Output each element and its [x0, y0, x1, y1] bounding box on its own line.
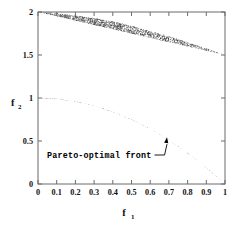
x-tick-label: 0.3 — [89, 188, 99, 197]
y-tick-label: 0 — [29, 180, 33, 189]
y-tick-label: 0.5 — [23, 137, 33, 146]
y-tick-label: 1 — [29, 94, 33, 103]
svg-text:2: 2 — [18, 103, 22, 111]
x-tick-label: 0.4 — [108, 188, 118, 197]
svg-text:f: f — [122, 207, 126, 218]
x-tick-label: 1 — [223, 188, 227, 197]
pareto-front-scatter-figure: 00.10.20.30.40.50.60.70.80.91 00.511.52 … — [0, 0, 247, 229]
x-tick-label: 0.2 — [70, 188, 80, 197]
y-tick-label: 1.5 — [23, 51, 33, 60]
y-tick-label: 2 — [29, 8, 33, 17]
svg-text:f: f — [11, 97, 15, 108]
x-tick-label: 0.8 — [182, 188, 192, 197]
pareto-front-annotation-label: Pareto-optimal front — [47, 151, 152, 161]
x-tick-label: 0.7 — [164, 188, 174, 197]
x-tick-label: 0.6 — [145, 188, 155, 197]
x-tick-label: 0.1 — [52, 188, 62, 197]
svg-text:1: 1 — [131, 213, 135, 221]
x-tick-label: 0 — [36, 188, 40, 197]
x-tick-label: 0.5 — [126, 188, 136, 197]
chart-svg: 00.10.20.30.40.50.60.70.80.91 00.511.52 … — [0, 0, 247, 229]
x-tick-label: 0.9 — [201, 188, 211, 197]
